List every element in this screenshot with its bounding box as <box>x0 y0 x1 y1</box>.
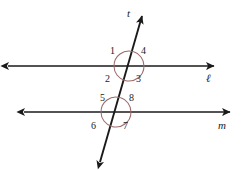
angle-label-1: 1 <box>110 46 115 56</box>
angle-label-4: 4 <box>141 46 146 56</box>
line-t-transversal <box>100 16 142 162</box>
angle-label-7: 7 <box>123 121 128 131</box>
line-label-l: ℓ <box>206 73 211 84</box>
angle-label-6: 6 <box>91 121 96 131</box>
angle-label-2: 2 <box>105 74 110 84</box>
angle-label-5: 5 <box>100 93 105 103</box>
angle-label-8: 8 <box>129 93 134 103</box>
line-label-m: m <box>218 120 226 131</box>
angle-label-3: 3 <box>136 74 141 84</box>
diagram-canvas <box>0 0 241 170</box>
geometry-diagram: 1 4 2 3 5 8 6 7 t ℓ m <box>0 0 241 170</box>
line-label-t: t <box>127 8 130 19</box>
